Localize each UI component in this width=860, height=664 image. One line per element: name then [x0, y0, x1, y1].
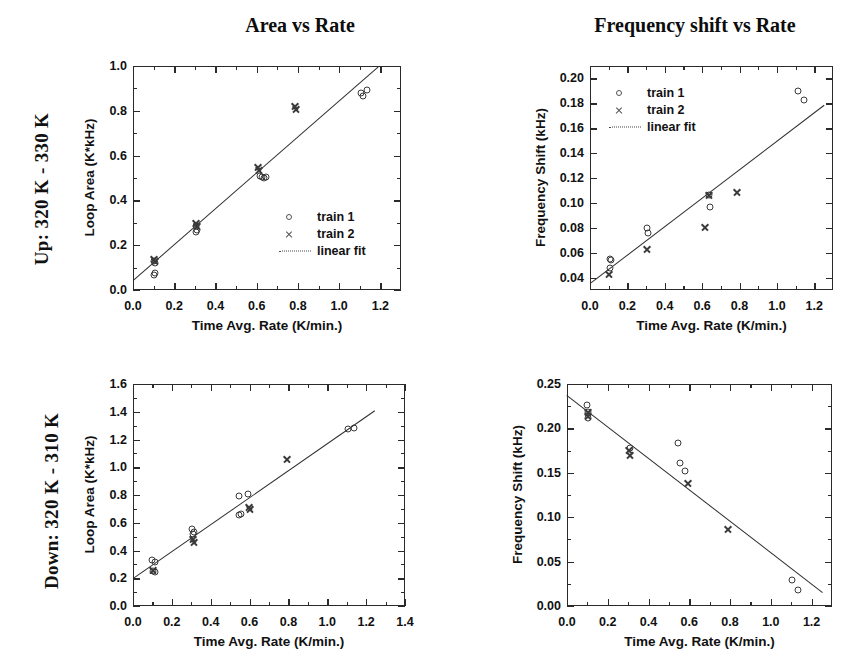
y-tick-up-freq-8 [590, 78, 597, 79]
x-tick-label-up-freq-1: 0.2 [619, 299, 636, 313]
y-tick-up-area-1 [133, 245, 140, 246]
y-tick-up-freq-7 [590, 103, 597, 104]
x-tick-top-up-freq-0 [590, 66, 591, 73]
circle-marker-icon [286, 214, 292, 220]
x-minortick-down-freq-3 [710, 602, 711, 606]
y-tick-right-up-freq-6 [826, 128, 833, 129]
x-minortick-up-area-3 [277, 286, 278, 290]
x-minortick-top-up-freq-2 [683, 66, 684, 70]
x-minortick-down-freq-4 [750, 602, 751, 606]
legend-item-train1: train 1 [278, 208, 366, 225]
y-tick-down-area-5 [133, 467, 140, 468]
x-tick-label-down-freq-1: 0.2 [599, 615, 616, 629]
y-axis-title-down-freq: Frequency Shift (kHz) [510, 384, 525, 606]
x-tick-up-area-3 [257, 283, 258, 290]
x-minortick-down-freq-2 [669, 602, 670, 606]
y-tick-label-up-freq-6: 0.16 [546, 121, 584, 135]
y-minortick-right-down-area-6 [401, 426, 405, 427]
y-tick-right-down-freq-5 [825, 384, 832, 385]
row-label-up: Up: 320 K - 330 K [31, 89, 53, 289]
y-tick-up-area-4 [133, 111, 140, 112]
y-minortick-right-down-freq-2 [828, 495, 832, 496]
panel-title-freq: Frequency shift vs Rate [545, 14, 845, 37]
x-tick-label-down-area-6: 1.2 [357, 615, 374, 629]
x-tick-label-down-area-4: 0.8 [280, 615, 297, 629]
y-tick-right-down-freq-2 [825, 517, 832, 518]
x-minortick-top-down-freq-0 [587, 384, 588, 388]
y-minortick-right-down-freq-4 [828, 406, 832, 407]
x-tick-down-area-3 [250, 599, 251, 606]
y-tick-right-down-area-2 [398, 551, 405, 552]
x-tick-up-freq-4 [740, 283, 741, 290]
x-tick-down-area-2 [211, 599, 212, 606]
x-tick-down-freq-4 [730, 599, 731, 606]
y-tick-right-down-area-7 [398, 412, 405, 413]
y-minortick-right-down-freq-1 [828, 539, 832, 540]
x-tick-down-area-5 [327, 599, 328, 606]
x-minortick-top-down-area-1 [191, 384, 192, 388]
y-minortick-down-area-5 [133, 453, 137, 454]
y-tick-label-up-freq-8: 0.20 [546, 71, 584, 85]
x-tick-label-down-area-7: 1.4 [396, 615, 413, 629]
legend-key [278, 210, 312, 224]
y-tick-label-down-freq-5: 0.25 [523, 377, 561, 391]
x-axis-title-down-area: Time Avg. Rate (K/min.) [133, 634, 405, 649]
x-tick-down-area-0 [133, 599, 134, 606]
y-tick-right-down-area-0 [398, 606, 405, 607]
y-tick-down-freq-0 [567, 606, 574, 607]
x-tick-up-freq-5 [777, 283, 778, 290]
x-tick-top-down-freq-2 [649, 384, 650, 391]
y-tick-up-area-5 [133, 66, 140, 67]
y-tick-right-up-area-2 [394, 200, 401, 201]
x-tick-up-area-6 [380, 283, 381, 290]
y-minortick-right-down-area-5 [401, 453, 405, 454]
legend-key [278, 227, 312, 241]
x-minortick-up-freq-4 [758, 286, 759, 290]
legend-up-area: train 1train 2linear fit [278, 208, 366, 259]
x-minortick-up-area-0 [154, 286, 155, 290]
legend-item-train1: train 1 [608, 84, 696, 101]
y-tick-right-up-freq-5 [826, 153, 833, 154]
x-tick-top-up-area-5 [339, 66, 340, 73]
x-minortick-up-area-5 [360, 286, 361, 290]
y-minortick-up-area-1 [133, 223, 137, 224]
y-tick-right-up-freq-7 [826, 103, 833, 104]
y-tick-label-down-freq-1: 0.05 [523, 555, 561, 569]
y-axis-title-up-area: Loop Area (K*kHz) [82, 66, 97, 290]
x-tick-top-up-freq-2 [665, 66, 666, 73]
x-tick-down-freq-3 [689, 599, 690, 606]
x-tick-top-down-freq-6 [812, 384, 813, 391]
y-tick-up-freq-2 [590, 228, 597, 229]
y-tick-up-area-3 [133, 156, 140, 157]
y-minortick-down-area-7 [133, 398, 137, 399]
y-minortick-down-area-2 [133, 537, 137, 538]
x-tick-down-freq-6 [812, 599, 813, 606]
y-tick-label-down-freq-2: 0.10 [523, 510, 561, 524]
y-tick-up-area-2 [133, 200, 140, 201]
y-tick-right-up-freq-3 [826, 203, 833, 204]
x-minortick-top-down-freq-1 [628, 384, 629, 388]
legend-item-train2: train 2 [608, 101, 696, 118]
x-minortick-top-up-freq-3 [721, 66, 722, 70]
y-tick-down-area-0 [133, 606, 140, 607]
legend-label: linear fit [647, 120, 696, 134]
y-tick-down-freq-2 [567, 517, 574, 518]
y-tick-down-area-3 [133, 523, 140, 524]
y-tick-right-up-freq-8 [826, 78, 833, 79]
x-minortick-top-up-area-4 [319, 66, 320, 70]
y-tick-right-up-area-0 [394, 290, 401, 291]
y-minortick-right-up-area-3 [397, 133, 401, 134]
x-tick-top-up-area-6 [380, 66, 381, 73]
x-tick-top-down-area-1 [172, 384, 173, 391]
x-tick-top-down-area-5 [327, 384, 328, 391]
y-tick-up-area-0 [133, 290, 140, 291]
row-label-down: Down: 320 K - 310 K [41, 391, 63, 611]
y-minortick-down-freq-4 [567, 406, 571, 407]
x-tick-label-up-area-6: 1.2 [372, 299, 389, 313]
x-tick-up-freq-2 [665, 283, 666, 290]
y-tick-down-area-2 [133, 551, 140, 552]
x-tick-top-up-freq-3 [702, 66, 703, 73]
y-minortick-down-area-0 [133, 592, 137, 593]
x-tick-label-down-freq-5: 1.0 [762, 615, 779, 629]
x-tick-label-down-area-5: 1.0 [319, 615, 336, 629]
